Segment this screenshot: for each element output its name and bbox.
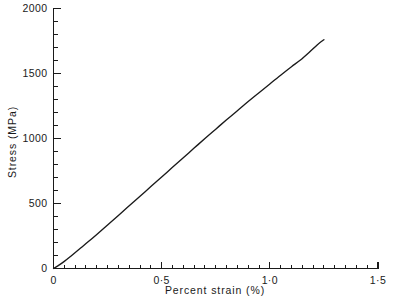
x-axis-title: Percent strain (%) bbox=[165, 284, 265, 296]
y-tick-label: 2000 bbox=[23, 2, 48, 14]
y-axis-title: Stress (MPa) bbox=[6, 106, 18, 178]
figure-container: 0500100015002000 00·51·01·5 Percent stra… bbox=[0, 0, 396, 308]
y-tick-label: 500 bbox=[29, 197, 48, 209]
stress-strain-chart: 0500100015002000 00·51·01·5 Percent stra… bbox=[0, 0, 396, 308]
data-curve bbox=[54, 40, 324, 269]
y-tick-label: 0 bbox=[41, 262, 47, 274]
y-tick-label: 1500 bbox=[23, 67, 48, 79]
y-tick-label: 1000 bbox=[23, 132, 48, 144]
y-axis-tick-labels: 0500100015002000 bbox=[23, 2, 48, 274]
y-axis-ticks bbox=[54, 9, 61, 269]
x-axis-ticks bbox=[54, 262, 379, 269]
x-tick-label: 1·5 bbox=[370, 274, 386, 286]
x-tick-label: 0 bbox=[50, 274, 56, 286]
